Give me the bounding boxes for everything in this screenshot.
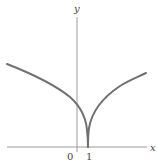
- curve-left-branch: [7, 64, 88, 147]
- x-axis-label: x: [150, 142, 156, 153]
- tick-label-one: 1: [86, 151, 92, 162]
- origin-label: 0: [67, 151, 73, 162]
- y-axis-label: y: [73, 3, 80, 14]
- curve-right-branch: [88, 73, 146, 147]
- function-graph: y x 0 1: [0, 0, 157, 166]
